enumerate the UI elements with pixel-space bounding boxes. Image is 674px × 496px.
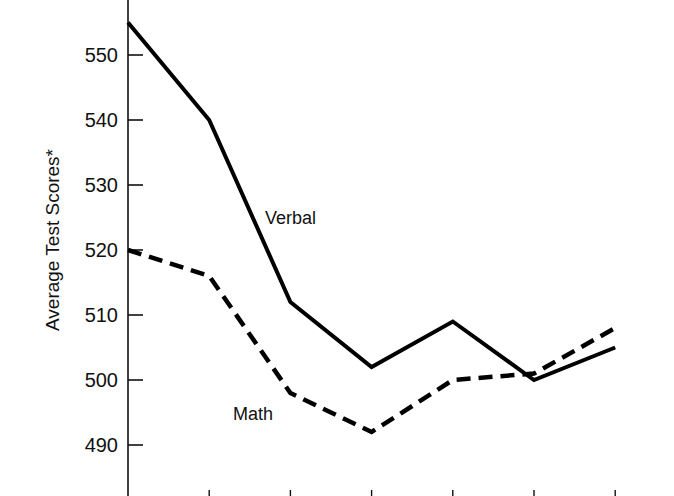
verbal-label: Verbal: [265, 208, 316, 228]
y-tick-label: 510: [85, 304, 118, 326]
y-tick-label: 490: [85, 434, 118, 456]
y-axis-title: Average Test Scores*: [42, 148, 63, 331]
series-verbal-line: [128, 23, 615, 381]
y-tick-label: 530: [85, 174, 118, 196]
y-tick-label: 550: [85, 44, 118, 66]
series-labels: VerbalMath: [233, 208, 316, 424]
y-axis: 490500510520530540550: [85, 0, 143, 496]
y-tick-label: 540: [85, 109, 118, 131]
series-math-line: [128, 250, 615, 432]
line-chart: 490500510520530540550 VerbalMath Average…: [0, 0, 674, 496]
series-lines: [128, 23, 615, 433]
math-label: Math: [233, 404, 273, 424]
x-axis: [209, 490, 615, 496]
y-tick-label: 520: [85, 239, 118, 261]
y-tick-label: 500: [85, 369, 118, 391]
